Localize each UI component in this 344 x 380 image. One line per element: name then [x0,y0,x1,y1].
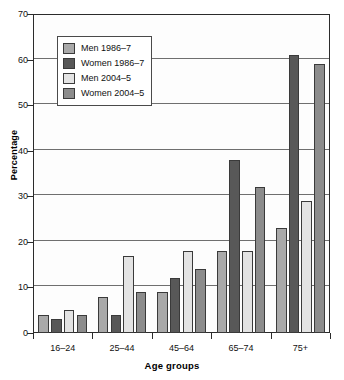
y-tick-label: 20 [4,237,28,247]
bar [77,315,88,333]
bar [289,55,300,333]
bar [229,160,240,333]
legend-item: Women 2004–5 [63,86,144,101]
bar [64,310,75,333]
x-tick-mark [271,333,272,339]
bar [255,187,266,333]
bar [157,292,168,333]
legend-swatch-icon [63,43,75,54]
y-tick-label: 70 [4,9,28,19]
x-tick-label: 16–24 [50,343,75,353]
x-tick-mark [33,333,34,339]
legend-swatch-icon [63,58,75,69]
bar [123,256,134,333]
x-tick-mark [92,333,93,339]
legend-label: Men 1986–7 [81,44,131,53]
bar [111,315,122,333]
bar [276,228,287,333]
x-tick-mark [211,333,212,339]
bar [217,251,228,333]
legend-item: Men 1986–7 [63,41,144,56]
y-tick-label: 60 [4,55,28,65]
bar [242,251,253,333]
y-tick-label: 10 [4,282,28,292]
chart-legend: Men 1986–7Women 1986–7Men 2004–5Women 20… [57,36,152,106]
x-tick-label: 75+ [293,343,308,353]
x-tick-mark [330,333,331,339]
legend-item: Women 1986–7 [63,56,144,71]
x-axis-title: Age groups [0,360,344,371]
y-tick-label: 50 [4,100,28,110]
legend-label: Women 1986–7 [81,59,144,68]
y-tick-label: 0 [4,328,28,338]
bar [136,292,147,333]
legend-item: Men 2004–5 [63,71,144,86]
legend-swatch-icon [63,88,75,99]
bar [170,278,181,333]
legend-label: Women 2004–5 [81,89,144,98]
x-tick-mark [152,333,153,339]
bar [314,64,325,333]
x-tick-label: 65–74 [228,343,253,353]
legend-swatch-icon [63,73,75,84]
bar [183,251,194,333]
x-tick-label: 25–44 [110,343,135,353]
bar [38,315,49,333]
bar [195,269,206,333]
bar [51,319,62,333]
y-tick-label: 40 [4,146,28,156]
bar-chart: Percentage 010203040506070 16–2425–4445–… [0,0,344,380]
y-tick-label: 30 [4,191,28,201]
x-tick-label: 45–64 [169,343,194,353]
legend-label: Men 2004–5 [81,74,131,83]
bar [98,297,109,333]
bar [301,201,312,333]
